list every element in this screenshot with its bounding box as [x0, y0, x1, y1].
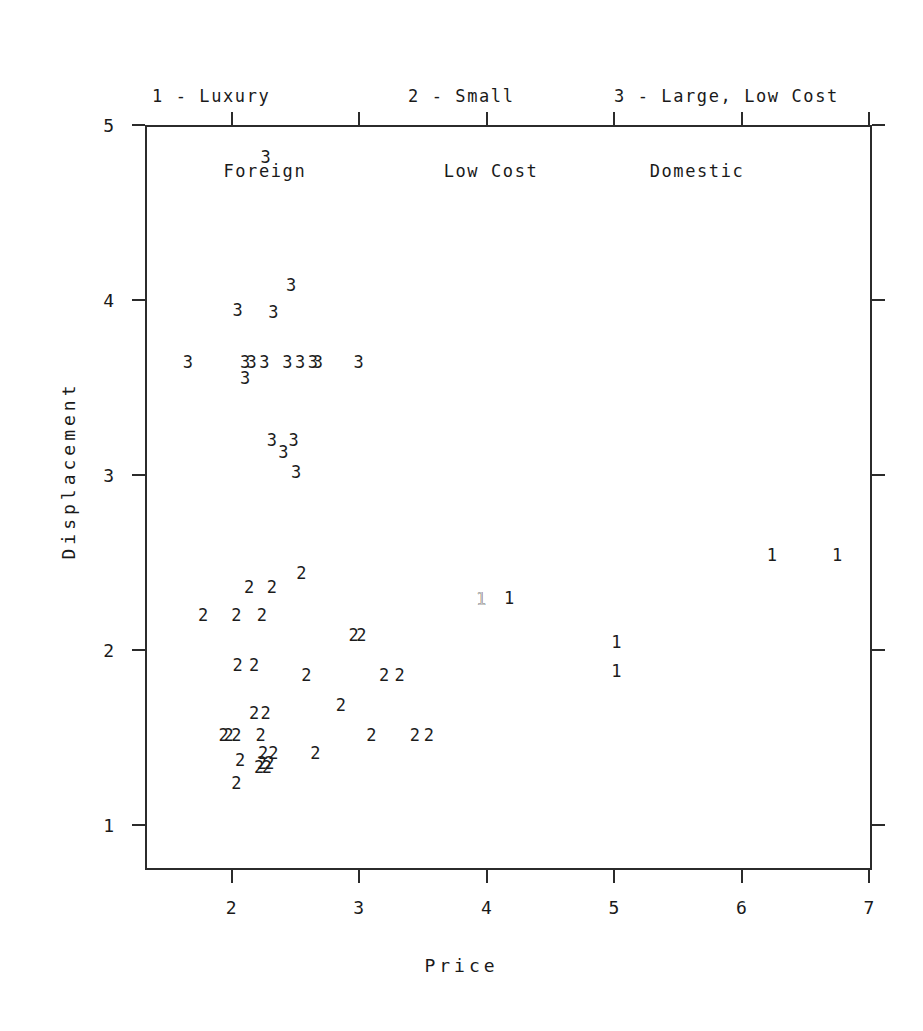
data-point-2: 2 [301, 667, 311, 684]
x-tick-bottom [231, 870, 233, 883]
x-tick-label: 6 [736, 897, 748, 918]
x-tick-bottom [741, 870, 743, 883]
data-point-3: 3 [286, 277, 296, 294]
data-point-2: 2 [235, 751, 245, 768]
data-point-1-faint: 1 [476, 590, 486, 607]
y-tick-label: 2 [75, 640, 115, 661]
data-point-3: 3 [313, 353, 323, 370]
x-tick-top [231, 112, 233, 125]
y-tick-label: 5 [75, 115, 115, 136]
legend-entry-line1: 1 - Luxury [152, 84, 306, 109]
data-point-2: 2 [260, 704, 270, 721]
y-tick-left [132, 299, 145, 301]
data-point-2: 2 [249, 704, 259, 721]
legend-entry-line1: 3 - Large, Low Cost [614, 84, 839, 109]
data-point-2: 2 [310, 744, 320, 761]
y-tick-left [132, 649, 145, 651]
data-point-2: 2 [249, 656, 259, 673]
scatter-plot-figure: 1 - Luxury Foreign 2 - Small Low Cost 3 … [0, 0, 923, 1031]
data-point-3: 3 [354, 353, 364, 370]
x-tick-label: 5 [608, 897, 620, 918]
data-point-1: 1 [832, 547, 842, 564]
x-tick-label: 7 [864, 897, 876, 918]
x-axis-title: Price [0, 955, 923, 976]
data-point-3: 3 [259, 353, 269, 370]
data-point-2: 2 [410, 726, 420, 743]
x-tick-label: 4 [481, 897, 493, 918]
data-point-2: 2 [267, 579, 277, 596]
data-point-1: 1 [611, 662, 621, 679]
data-point-3: 3 [183, 353, 193, 370]
data-point-3: 3 [260, 148, 270, 165]
data-point-3: 3 [291, 463, 301, 480]
data-point-1: 1 [504, 589, 514, 606]
data-point-2: 2 [231, 607, 241, 624]
y-tick-right [872, 824, 885, 826]
data-point-2: 2 [296, 565, 306, 582]
x-tick-bottom [358, 870, 360, 883]
y-tick-right [872, 474, 885, 476]
y-tick-right [872, 649, 885, 651]
data-point-2: 2 [244, 579, 254, 596]
legend: 1 - Luxury Foreign 2 - Small Low Cost 3 … [0, 34, 923, 90]
data-point-3: 3 [268, 303, 278, 320]
data-point-2: 2 [379, 667, 389, 684]
data-point-2: 2 [262, 758, 272, 775]
data-point-3: 3 [232, 301, 242, 318]
data-point-3: 3 [240, 370, 250, 387]
x-tick-top [613, 112, 615, 125]
data-point-2: 2 [231, 774, 241, 791]
data-point-3: 3 [282, 353, 292, 370]
data-point-2: 2 [231, 726, 241, 743]
x-tick-bottom [613, 870, 615, 883]
y-tick-label: 1 [75, 815, 115, 836]
y-tick-left [132, 474, 145, 476]
y-axis-title: Displacement [58, 341, 79, 601]
y-tick-left [132, 124, 145, 126]
x-tick-top [486, 112, 488, 125]
data-point-3: 3 [301, 127, 311, 128]
data-point-2: 2 [257, 607, 267, 624]
data-point-2: 2 [336, 696, 346, 713]
data-point-2: 2 [424, 726, 434, 743]
y-tick-right [872, 124, 885, 126]
x-tick-label: 3 [353, 897, 365, 918]
x-tick-top [741, 112, 743, 125]
x-tick-bottom [486, 870, 488, 883]
x-tick-label: 2 [226, 897, 238, 918]
y-tick-right [872, 299, 885, 301]
data-point-2: 2 [366, 726, 376, 743]
data-point-1: 1 [611, 633, 621, 650]
x-tick-top [358, 112, 360, 125]
plot-frame: 1111112222222222222222222222222222222233… [145, 125, 872, 870]
data-point-2: 2 [232, 656, 242, 673]
y-tick-label: 4 [75, 290, 115, 311]
data-point-1: 1 [767, 547, 777, 564]
data-point-2: 2 [394, 667, 404, 684]
x-tick-top [868, 112, 870, 125]
y-tick-label: 3 [75, 465, 115, 486]
data-point-3: 3 [278, 443, 288, 460]
x-tick-bottom [868, 870, 870, 883]
plot-area: 1111112222222222222222222222222222222233… [147, 127, 870, 868]
data-point-3: 3 [295, 353, 305, 370]
legend-entry-line1: 2 - Small [408, 84, 538, 109]
data-point-2: 2 [356, 626, 366, 643]
data-point-3: 3 [267, 432, 277, 449]
y-tick-left [132, 824, 145, 826]
data-point-2: 2 [255, 726, 265, 743]
data-point-3: 3 [289, 431, 299, 448]
data-point-2: 2 [198, 607, 208, 624]
